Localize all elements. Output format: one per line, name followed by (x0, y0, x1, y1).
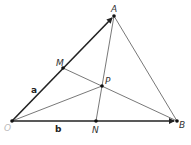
point-N (94, 119, 98, 123)
segment-OP (12, 86, 102, 121)
label-B: B (179, 120, 185, 130)
label-M: M (56, 58, 64, 68)
label-O: O (4, 123, 11, 133)
point-A (112, 14, 116, 18)
label-vector-b: b (55, 124, 62, 134)
label-N: N (92, 125, 99, 135)
label-A: A (110, 4, 117, 14)
segment-AB (114, 16, 177, 121)
geometry-diagram: A M P N B O a b (0, 0, 191, 145)
vector-a (12, 18, 112, 121)
label-P: P (105, 76, 111, 86)
point-P (100, 84, 104, 88)
label-vector-a: a (31, 85, 37, 95)
